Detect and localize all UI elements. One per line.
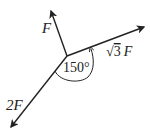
vector-f-label: F <box>41 20 52 36</box>
force-symbol: F <box>123 44 133 59</box>
vector-sqrt3f-label: √3F <box>106 44 133 59</box>
radicand: 3 <box>114 44 121 59</box>
vector-2f-arrow <box>11 56 67 127</box>
angle-label: 150° <box>63 60 90 75</box>
force-diagram: F √3F 2F 150° <box>0 0 150 136</box>
vector-f-arrow <box>51 11 67 56</box>
vector-2f-label: 2F <box>6 97 24 113</box>
